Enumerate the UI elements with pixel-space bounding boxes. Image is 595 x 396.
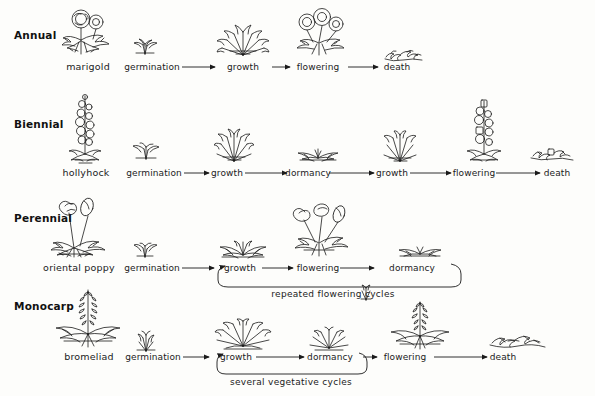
row-label-annual: Annual	[14, 29, 56, 41]
row-label-biennial: Biennial	[14, 118, 64, 130]
stage-biennial-death: death	[544, 168, 571, 178]
stage-monocarp-flowering: flowering	[384, 352, 427, 362]
plant-name-oriental-poppy: oriental poppy	[43, 262, 115, 273]
oriental-poppy-plant-icon	[47, 196, 117, 258]
row-label-perennial: Perennial	[14, 212, 72, 224]
flowering-marigold-icon	[291, 8, 349, 56]
germination-seedling-icon	[130, 37, 160, 55]
stage-biennial-growth-2: growth	[376, 168, 408, 178]
germination-seedling-icon	[130, 330, 162, 352]
stage-perennial-flowering: flowering	[297, 263, 340, 273]
growth-vegetative-icon	[216, 18, 270, 56]
hollyhock-plant-icon	[65, 92, 105, 164]
caption-repeated-flowering-cycles: repeated flowering cycles	[271, 289, 394, 299]
flowering-poppy-icon	[291, 200, 351, 258]
germination-seedling-icon	[130, 140, 162, 160]
stage-biennial-growth-1: growth	[211, 168, 243, 178]
stage-monocarp-germination: germination	[125, 352, 181, 362]
stage-biennial-dormancy: dormancy	[285, 168, 331, 178]
stage-monocarp-dormancy: dormancy	[307, 352, 353, 362]
germination-seedling-icon	[131, 240, 159, 258]
growth-vegetative-icon	[381, 130, 419, 162]
stage-annual-flowering: flowering	[297, 62, 340, 72]
stage-biennial-flowering: flowering	[453, 168, 496, 178]
growth-rosette-icon	[215, 238, 271, 260]
growth-bromeliad-rosette-icon	[214, 318, 272, 352]
row-label-monocarp: Monocarp	[14, 300, 74, 312]
marigold-plant-icon	[57, 8, 123, 56]
stage-annual-growth: growth	[227, 62, 259, 72]
stage-monocarp-growth: growth	[220, 352, 252, 362]
flowering-hollyhock-icon	[464, 98, 504, 162]
bromeliad-plant-icon	[52, 288, 124, 350]
dormancy-rosette-icon	[294, 144, 342, 162]
death-withered-icon	[488, 330, 546, 350]
plant-name-hollyhock: hollyhock	[62, 167, 109, 178]
dormancy-rosette-icon	[395, 242, 445, 258]
dormancy-clump-icon	[307, 326, 351, 352]
stage-perennial-growth: growth	[224, 263, 256, 273]
stage-biennial-germination: germination	[126, 168, 182, 178]
stage-annual-death: death	[384, 62, 411, 72]
stage-annual-germination: germination	[124, 62, 180, 72]
plant-name-bromeliad: bromeliad	[64, 351, 114, 362]
stage-monocarp-death: death	[490, 352, 517, 362]
plant-name-marigold: marigold	[66, 61, 110, 72]
death-withered-icon	[529, 146, 575, 162]
flowering-bromeliad-icon	[388, 300, 452, 352]
stage-perennial-dormancy: dormancy	[389, 263, 435, 273]
death-withered-icon	[383, 48, 425, 62]
caption-several-vegetative-cycles: several vegetative cycles	[230, 377, 352, 387]
life-cycle-diagram: Annual Biennial Perennial Monocarp marig…	[0, 0, 595, 396]
growth-vegetative-icon	[214, 128, 254, 162]
stage-perennial-germination: germination	[124, 263, 180, 273]
